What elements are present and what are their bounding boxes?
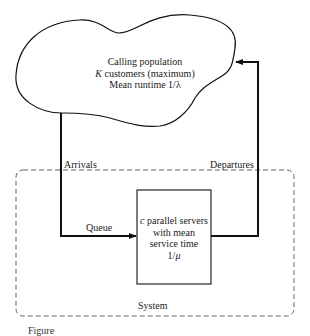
server-line-4: 1/μ bbox=[138, 250, 210, 262]
figure-caption: Figure bbox=[28, 325, 54, 336]
service-rate-variable: μ bbox=[175, 250, 180, 261]
calling-population-runtime: Mean runtime 1/λ bbox=[70, 79, 220, 91]
calling-population-capacity: K customers (maximum) bbox=[70, 68, 220, 80]
calling-population-title: Calling population bbox=[70, 56, 220, 68]
capacity-variable: K bbox=[95, 68, 102, 79]
departures-label: Departures bbox=[210, 159, 254, 170]
server-line-1: c parallel servers bbox=[138, 215, 210, 227]
system-label: System bbox=[138, 300, 167, 311]
calling-population-label: Calling population K customers (maximum)… bbox=[70, 56, 220, 91]
arrivals-label: Arrivals bbox=[64, 159, 97, 170]
server-count-text: parallel servers bbox=[145, 215, 208, 226]
capacity-text: customers (maximum) bbox=[102, 68, 195, 79]
arrivals-queue-path bbox=[61, 113, 136, 236]
server-line-2: with mean bbox=[138, 227, 210, 239]
queue-label: Queue bbox=[86, 222, 112, 233]
server-label: c parallel servers with mean service tim… bbox=[138, 215, 210, 261]
server-line-3: service time bbox=[138, 238, 210, 250]
